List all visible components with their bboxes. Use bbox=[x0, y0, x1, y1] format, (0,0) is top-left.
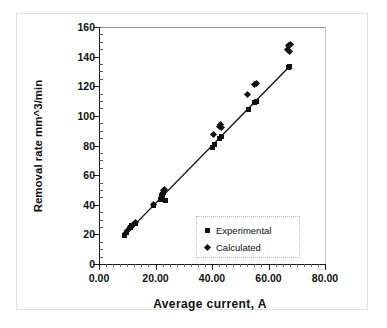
x-minor-tick bbox=[219, 264, 220, 267]
diamond-marker-icon bbox=[204, 243, 211, 250]
y-tick-label: 140 bbox=[55, 52, 95, 62]
x-minor-tick bbox=[290, 264, 291, 267]
x-tick bbox=[269, 264, 270, 270]
data-point-experimental bbox=[254, 99, 259, 104]
x-minor-tick bbox=[134, 264, 135, 267]
x-tick-label: 80.00 bbox=[295, 272, 355, 284]
x-tick bbox=[99, 264, 100, 270]
x-tick bbox=[325, 264, 326, 270]
x-tick-label: 20.00 bbox=[126, 272, 186, 284]
y-axis-title: Removal rate mm^3/min bbox=[32, 46, 44, 246]
chart-legend: Experimental Calculated bbox=[196, 216, 300, 258]
x-minor-tick bbox=[113, 264, 114, 267]
y-tick-label: 160 bbox=[55, 22, 95, 32]
x-minor-tick bbox=[276, 264, 277, 267]
x-minor-tick bbox=[198, 264, 199, 267]
x-minor-tick bbox=[254, 264, 255, 267]
x-minor-tick bbox=[247, 264, 248, 267]
y-tick-label: 100 bbox=[55, 111, 95, 121]
x-minor-tick bbox=[170, 264, 171, 267]
chart-figure: 020406080100120140160 0.0020.0040.0060.0… bbox=[0, 0, 387, 328]
x-minor-tick bbox=[120, 264, 121, 267]
x-minor-tick bbox=[184, 264, 185, 267]
y-tick-label: 60 bbox=[55, 170, 95, 180]
y-tick-label: 120 bbox=[55, 81, 95, 91]
x-minor-tick bbox=[311, 264, 312, 267]
x-minor-tick bbox=[283, 264, 284, 267]
y-tick-label: 80 bbox=[55, 141, 95, 151]
x-minor-tick bbox=[205, 264, 206, 267]
legend-item-calculated: Calculated bbox=[205, 240, 261, 254]
x-minor-tick bbox=[148, 264, 149, 267]
y-tick-label: 40 bbox=[55, 200, 95, 210]
x-minor-tick bbox=[106, 264, 107, 267]
square-marker-icon bbox=[205, 228, 210, 233]
x-minor-tick bbox=[141, 264, 142, 267]
x-tick-label: 40.00 bbox=[182, 272, 242, 284]
data-point-experimental bbox=[219, 134, 224, 139]
y-tick-label: 0 bbox=[55, 259, 95, 269]
x-minor-tick bbox=[163, 264, 164, 267]
data-point-experimental bbox=[212, 142, 217, 147]
plot-border-right bbox=[325, 27, 326, 265]
y-tick-label: 20 bbox=[55, 229, 95, 239]
x-tick bbox=[156, 264, 157, 270]
x-minor-tick bbox=[261, 264, 262, 267]
x-minor-tick bbox=[297, 264, 298, 267]
legend-label-experimental: Experimental bbox=[216, 225, 271, 236]
x-minor-tick bbox=[318, 264, 319, 267]
legend-item-experimental: Experimental bbox=[205, 223, 271, 237]
x-minor-tick bbox=[177, 264, 178, 267]
x-minor-tick bbox=[304, 264, 305, 267]
x-minor-tick bbox=[233, 264, 234, 267]
data-point-experimental bbox=[246, 107, 251, 112]
x-minor-tick bbox=[226, 264, 227, 267]
x-axis-title: Average current, A bbox=[70, 297, 350, 311]
x-minor-tick bbox=[240, 264, 241, 267]
legend-label-calculated: Calculated bbox=[216, 242, 261, 253]
x-minor-tick bbox=[191, 264, 192, 267]
x-tick-label: 0.00 bbox=[69, 272, 129, 284]
x-minor-tick bbox=[127, 264, 128, 267]
x-tick-label: 60.00 bbox=[239, 272, 299, 284]
x-tick bbox=[212, 264, 213, 270]
data-point-experimental bbox=[287, 64, 292, 69]
